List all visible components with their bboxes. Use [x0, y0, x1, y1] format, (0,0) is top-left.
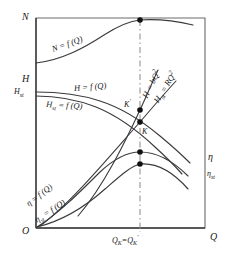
K-prime-dot	[137, 107, 143, 113]
pump-characteristic-diagram: N H Hst η ηst Q O QK=QK′ N = f (Q) H = f…	[0, 0, 227, 263]
axis-label-eta-st: ηst	[207, 170, 215, 180]
point-label-K-prime: K′	[124, 98, 131, 109]
axis-label-H-st: Hst	[14, 88, 24, 98]
H-st-curve-label: Hst = f (Q)	[46, 100, 83, 113]
axis-label-N: N	[22, 12, 29, 22]
N-peak-dot	[137, 17, 143, 23]
axis-label-H: H	[22, 74, 29, 84]
point-label-K: K	[142, 128, 147, 136]
diagram-canvas	[0, 0, 227, 263]
axis-label-origin: O	[22, 226, 29, 236]
eta-dot	[137, 149, 143, 155]
axis-label-Q: Q	[210, 232, 217, 242]
efficiency-curve-eta-st	[37, 164, 188, 227]
axis-label-eta: η	[208, 152, 213, 162]
eta-st-dot	[137, 161, 143, 167]
efficiency-curve-eta	[37, 152, 188, 227]
K-dot	[137, 119, 143, 125]
x-tick-label-QK: QK=QK′	[112, 234, 138, 246]
